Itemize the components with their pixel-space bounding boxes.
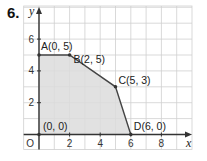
x-tick-label: 6 <box>128 138 134 149</box>
vertex-label-C: C(5, 3) <box>119 74 151 86</box>
x-tick-label: 8 <box>159 138 165 149</box>
y-tick-label: 2 <box>28 97 34 108</box>
x-tick-label: 2 <box>67 138 73 149</box>
coordinate-graph: xy 2468246O (0, 0)A(0, 5)B(2, 5)C(5, 3)D… <box>0 0 207 161</box>
vertex-dot <box>37 133 41 137</box>
vertex-dot <box>68 53 72 57</box>
x-axis-label: x <box>185 136 192 150</box>
origin-label: O <box>26 138 34 149</box>
x-tick-label: 4 <box>97 138 103 149</box>
vertex-dot <box>114 85 118 89</box>
vertex-dot <box>129 133 133 137</box>
vertex-label-B: B(2, 5) <box>74 53 106 65</box>
vertex-label-origin: (0, 0) <box>43 120 68 132</box>
y-axis-label: y <box>28 4 35 18</box>
y-tick-label: 6 <box>28 34 34 45</box>
y-tick-label: 4 <box>28 65 34 76</box>
vertex-label-A: A(0, 5) <box>41 40 73 52</box>
vertex-dot <box>37 53 41 57</box>
vertex-label-D: D(6, 0) <box>134 120 166 132</box>
